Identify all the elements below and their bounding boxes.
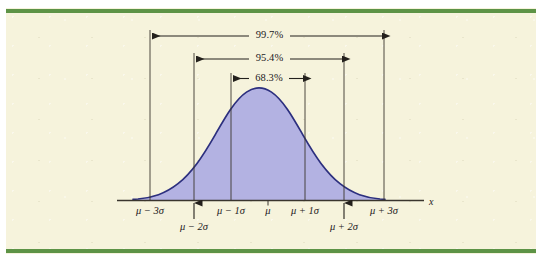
axis-label-mu-plus-3-sigma: μ + 3σ (370, 205, 398, 216)
axis-label-mu-minus-3-sigma: μ − 3σ (136, 205, 164, 216)
axis-label-mu-plus-2-sigma: μ + 2σ (330, 221, 358, 232)
figure-root: 99.7% 95.4% 68.3% μ − 3σ μ − 2σ μ − 1σ μ… (0, 0, 549, 264)
axis-label-mu-plus-1-sigma: μ + 1σ (291, 205, 319, 216)
x-axis-name-label: x (429, 196, 433, 207)
axis-label-mu-minus-1-sigma: μ − 1σ (217, 205, 245, 216)
normal-density-area (133, 88, 385, 201)
axis-label-mu: μ (265, 205, 270, 216)
pct-label-99-7: 99.7% (250, 29, 289, 40)
axis-label-mu-minus-2-sigma: μ − 2σ (180, 221, 208, 232)
pct-label-68-3: 68.3% (249, 72, 289, 83)
density-fill (133, 88, 385, 201)
pct-label-95-4: 95.4% (250, 52, 289, 63)
